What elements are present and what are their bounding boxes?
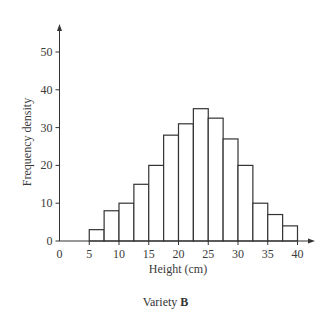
x-tick-label: 15	[143, 247, 155, 261]
y-axis-ticks: 01020304050	[41, 45, 60, 248]
histogram-bar	[283, 226, 298, 241]
x-tick-label: 40	[292, 247, 304, 261]
y-tick-label: 30	[41, 121, 53, 135]
x-tick-label: 20	[173, 247, 185, 261]
y-tick-label: 50	[41, 45, 53, 59]
histogram-bar	[149, 165, 164, 241]
x-tick-label: 10	[113, 247, 125, 261]
y-axis-arrow-icon	[57, 24, 62, 31]
histogram-bar	[119, 203, 134, 241]
x-tick-label: 30	[232, 247, 244, 261]
y-axis-label: Frequency density	[20, 98, 34, 186]
x-tick-label: 35	[262, 247, 274, 261]
x-axis-ticks: 0510152025303540	[57, 241, 304, 261]
y-tick-label: 10	[41, 196, 53, 210]
chart-caption: Variety B	[0, 295, 331, 310]
x-tick-label: 25	[202, 247, 214, 261]
histogram-bar	[238, 165, 253, 241]
histogram-bar	[193, 109, 208, 241]
histogram-chart: 01020304050 0510152025303540 Height (cm)…	[0, 0, 331, 290]
histogram-bars	[89, 109, 297, 241]
x-tick-label: 5	[86, 247, 92, 261]
caption-text: Variety	[143, 295, 181, 309]
histogram-bar	[223, 139, 238, 241]
histogram-bar	[253, 203, 268, 241]
histogram-bar	[208, 118, 223, 241]
y-tick-label: 0	[47, 234, 53, 248]
caption-variety-letter: B	[180, 295, 188, 309]
x-tick-label: 0	[57, 247, 63, 261]
histogram-bar	[179, 124, 194, 241]
histogram-bar	[268, 215, 283, 241]
y-tick-label: 20	[41, 158, 53, 172]
y-tick-label: 40	[41, 83, 53, 97]
histogram-bar	[104, 211, 119, 241]
histogram-bar	[134, 184, 149, 241]
x-axis-label: Height (cm)	[149, 262, 207, 276]
x-axis-arrow-icon	[308, 239, 315, 244]
histogram-bar	[164, 135, 179, 241]
histogram-bar	[89, 230, 104, 241]
